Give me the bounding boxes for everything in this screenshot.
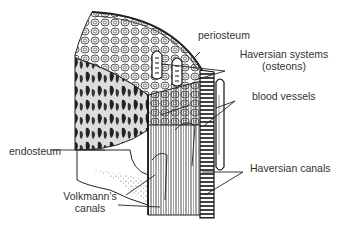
label-haversian-systems-line1: Haversian systems (228, 48, 337, 60)
label-haversian-systems: Haversian systems (osteons) (228, 48, 337, 72)
bone-diagram (0, 0, 337, 233)
haversian-canal-column (200, 70, 214, 218)
label-volkmanns-canals: Volkmann's canals (58, 190, 122, 214)
label-blood-vessels: blood vessels (252, 90, 316, 102)
label-periosteum: periosteum (198, 29, 250, 41)
label-volkmanns-canals-line1: Volkmann's (58, 190, 122, 202)
label-haversian-canals: Haversian canals (250, 162, 331, 174)
blood-vessel-tube (216, 79, 224, 170)
label-endosteum: endosteum (9, 145, 61, 157)
label-haversian-systems-line2: (osteons) (228, 60, 337, 72)
label-volkmanns-canals-line2: canals (58, 202, 122, 214)
lamellae-section (148, 80, 205, 215)
